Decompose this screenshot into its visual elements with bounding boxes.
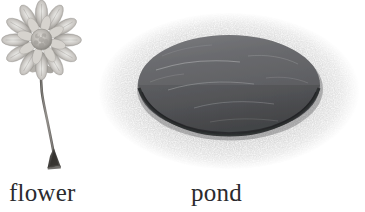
pond-water [138, 35, 320, 135]
flower-stem-group [41, 70, 53, 152]
flower-illustration [0, 0, 100, 175]
pond-label: pond [0, 180, 365, 205]
flower-root-wedge [48, 148, 62, 170]
pond-illustration [98, 12, 360, 170]
flower-center-disc [31, 29, 52, 50]
illustration-canvas: flower pond [0, 0, 365, 212]
